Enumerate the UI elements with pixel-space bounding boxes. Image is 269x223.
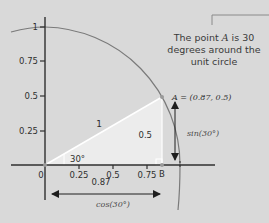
- x-tick-label: 0.75: [138, 170, 157, 180]
- opposite-label: 0.5: [138, 130, 152, 140]
- caption-point-name: A: [222, 32, 229, 43]
- hypotenuse-label: 1: [96, 119, 102, 129]
- point-a: [160, 95, 164, 99]
- sin-label: sin(30°): [187, 129, 219, 138]
- origin-point: [43, 163, 47, 167]
- point-a-label: A = (0.87, 0.5): [171, 93, 231, 102]
- origin-label: 0: [38, 170, 43, 180]
- caption-text: The point A is 30 degrees around the uni…: [164, 32, 264, 68]
- point-b: [160, 163, 164, 167]
- y-tick-label: 0.75: [19, 56, 38, 66]
- point-b-label: B: [159, 169, 165, 179]
- angle-label: 30°: [70, 154, 85, 164]
- y-tick-label: 0.25: [19, 126, 38, 136]
- caption-bracket: [212, 15, 269, 25]
- caption-prefix: The point: [174, 32, 222, 43]
- x-tick-label: 0.25: [70, 170, 89, 180]
- y-tick-label: 1: [33, 22, 38, 32]
- y-tick-label: 0.5: [24, 91, 38, 101]
- adjacent-label: 0.87: [92, 177, 111, 187]
- cos-label: cos(30°): [96, 200, 130, 209]
